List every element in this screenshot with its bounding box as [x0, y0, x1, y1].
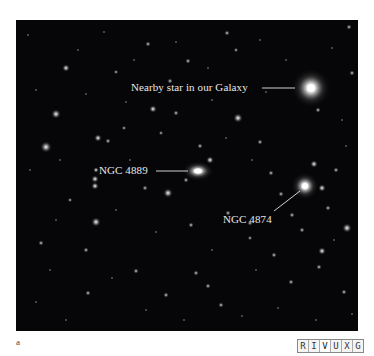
- label-ngc-4874: NGC 4874: [223, 213, 272, 225]
- band-v-active: V: [320, 340, 331, 352]
- band-x: X: [342, 340, 353, 352]
- star-field: [16, 20, 358, 331]
- label-ngc-4889: NGC 4889: [99, 164, 148, 176]
- wavelength-bar: R I V U X G: [297, 339, 364, 353]
- galaxy-cluster-photo: Nearby star in our Galaxy NGC 4889 NGC 4…: [16, 20, 358, 331]
- label-nearby-star: Nearby star in our Galaxy: [131, 81, 248, 93]
- band-i: I: [309, 340, 320, 352]
- panel-letter: a: [16, 337, 20, 347]
- band-u: U: [331, 340, 342, 352]
- band-r: R: [298, 340, 309, 352]
- band-g: G: [353, 340, 363, 352]
- ngc4874-leader-line: [274, 191, 300, 211]
